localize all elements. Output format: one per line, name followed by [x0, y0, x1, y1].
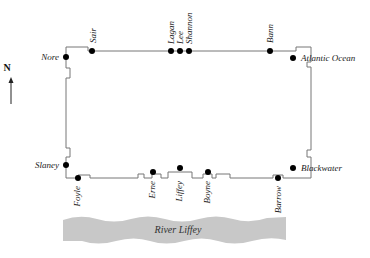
gate-dot-foyle[interactable] — [75, 175, 81, 181]
gate-label-shannon: Shannon — [184, 12, 194, 44]
gate-dot-nore[interactable] — [63, 54, 69, 60]
gate-label-barrow: Barrow — [273, 186, 283, 213]
gate-label-blackwater: Blackwater — [301, 163, 342, 173]
gate-dot-lagan[interactable] — [168, 48, 174, 54]
castle-plan-diagram: N Nore Atlantic Ocean Slaney Blackwater … — [0, 0, 370, 258]
river-label: River Liffey — [154, 224, 202, 235]
gate-dot-slaney[interactable] — [63, 162, 69, 168]
gate-dot-erne[interactable] — [150, 169, 156, 175]
north-arrow-icon: N — [3, 62, 13, 104]
gate-dot-sair[interactable] — [89, 48, 95, 54]
gate-label-sair: Sair — [88, 27, 98, 43]
north-label: N — [3, 62, 11, 73]
gate-dot-lee[interactable] — [177, 48, 183, 54]
gate-dot-shannon[interactable] — [186, 48, 192, 54]
gate-dot-boyne[interactable] — [205, 169, 211, 175]
gate-label-liffey: Liffey — [174, 181, 184, 203]
gate-dot-bann[interactable] — [267, 48, 273, 54]
gate-label-slaney: Slaney — [35, 160, 59, 170]
gate-label-foyle: Foyle — [72, 186, 82, 208]
gate-dot-liffey[interactable] — [177, 165, 183, 171]
wall-outline — [66, 47, 311, 178]
gate-label-boyne: Boyne — [202, 181, 212, 204]
gate-dot-barrow[interactable] — [275, 175, 281, 181]
gate-dot-atlantic[interactable] — [290, 55, 296, 61]
gate-label-erne: Erne — [147, 181, 157, 200]
gate-label-bann: Bann — [265, 24, 275, 43]
gate-label-atlantic: Atlantic Ocean — [300, 53, 356, 63]
gate-label-nore: Nore — [40, 52, 59, 62]
gate-dots — [63, 48, 296, 181]
gate-dot-blackwater[interactable] — [290, 165, 296, 171]
